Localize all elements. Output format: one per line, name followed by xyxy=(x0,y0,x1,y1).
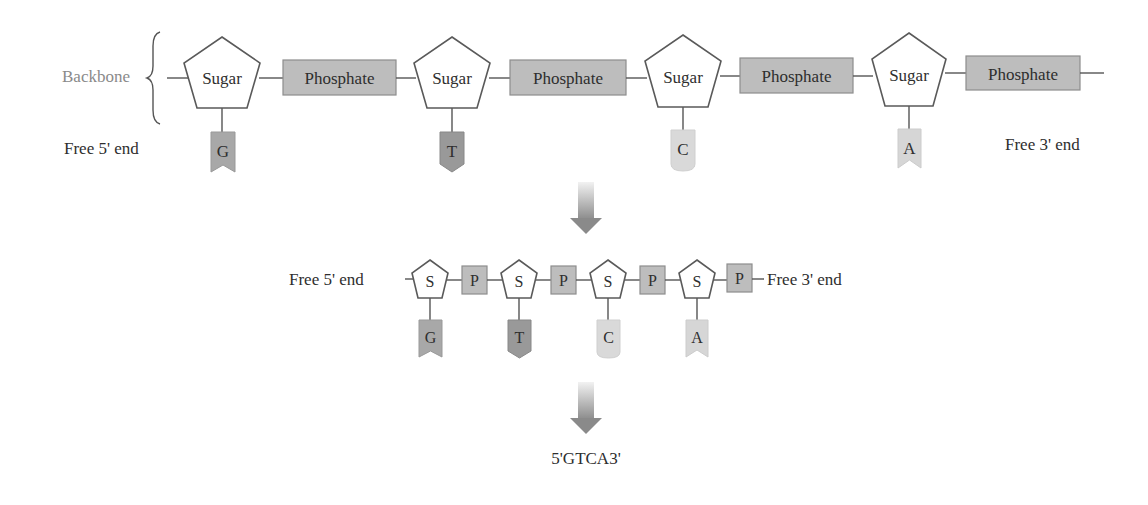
svg-text:Sugar: Sugar xyxy=(202,69,242,88)
svg-text:S: S xyxy=(426,273,435,290)
base-c-label: C xyxy=(677,140,688,159)
nucleotide-compact-4: S P A xyxy=(679,260,764,357)
base-a-label: A xyxy=(903,139,916,158)
nucleotide-3: Sugar Phosphate C xyxy=(645,35,873,171)
svg-text:G: G xyxy=(425,329,437,346)
nucleotide-1: Sugar Phosphate G xyxy=(184,37,416,172)
nucleotide-compact-3: S P C xyxy=(590,260,680,358)
svg-text:Phosphate: Phosphate xyxy=(988,65,1058,84)
svg-text:A: A xyxy=(691,329,703,346)
backbone-label: Backbone xyxy=(62,67,130,86)
svg-text:T: T xyxy=(515,329,525,346)
svg-text:S: S xyxy=(604,273,613,290)
svg-text:Phosphate: Phosphate xyxy=(305,69,375,88)
svg-text:Phosphate: Phosphate xyxy=(762,67,832,86)
svg-text:S: S xyxy=(693,273,702,290)
free-3-end-label: Free 3' end xyxy=(1005,135,1080,154)
nucleotide-2: Sugar Phosphate T xyxy=(414,37,647,172)
compact-strand: Free 5' end S P G S P T xyxy=(289,260,842,358)
svg-text:Sugar: Sugar xyxy=(663,68,703,87)
svg-text:P: P xyxy=(735,270,744,287)
down-arrow-icon xyxy=(570,382,602,434)
down-arrow-icon xyxy=(570,182,602,234)
base-g-label: G xyxy=(217,142,229,161)
svg-text:C: C xyxy=(603,329,614,346)
svg-text:S: S xyxy=(515,273,524,290)
free-5-end-label: Free 5' end xyxy=(64,139,139,158)
nucleotide-compact-2: S P T xyxy=(501,260,591,358)
svg-text:Sugar: Sugar xyxy=(889,66,929,85)
nucleotide-compact-1: S P G xyxy=(412,260,502,357)
top-strand: Backbone Sugar Phosphate G Sugar Phospha… xyxy=(62,32,1104,172)
free-5-end-label-compact: Free 5' end xyxy=(289,270,364,289)
sequence-label: 5'GTCA3' xyxy=(551,449,620,468)
svg-text:Phosphate: Phosphate xyxy=(533,69,603,88)
svg-text:P: P xyxy=(648,272,657,289)
base-t-label: T xyxy=(447,142,458,161)
dna-diagram: Backbone Sugar Phosphate G Sugar Phospha… xyxy=(0,0,1148,505)
svg-text:P: P xyxy=(470,272,479,289)
backbone-brace xyxy=(147,32,160,124)
free-3-end-label-compact: Free 3' end xyxy=(767,270,842,289)
svg-text:P: P xyxy=(559,272,568,289)
svg-text:Sugar: Sugar xyxy=(432,69,472,88)
